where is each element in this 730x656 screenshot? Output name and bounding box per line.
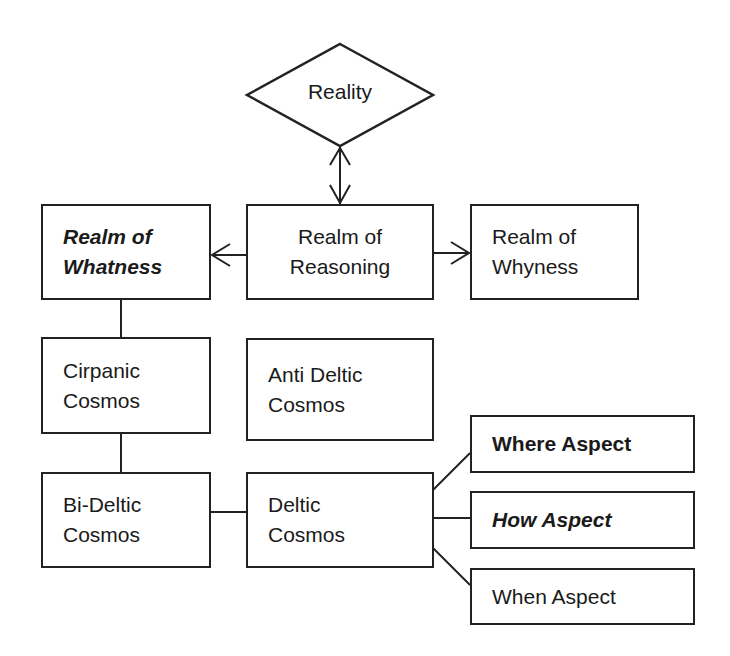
realm-of-whatness-box: Realm of Whatness — [41, 204, 211, 300]
when-aspect-box: When Aspect — [470, 568, 695, 625]
line1: Realm of — [298, 222, 382, 252]
label: Where Aspect — [492, 429, 693, 459]
where-aspect-box: Where Aspect — [470, 415, 695, 473]
line1: Realm of — [492, 222, 637, 252]
line1: Anti Deltic — [268, 360, 432, 390]
deltic-cosmos-box: Deltic Cosmos — [246, 472, 434, 568]
label: When Aspect — [492, 582, 693, 612]
line1: Cirpanic — [63, 356, 209, 386]
line2: Cosmos — [268, 520, 432, 550]
line1: Deltic — [268, 490, 432, 520]
reality-label: Reality — [247, 80, 433, 104]
cirpanic-cosmos-box: Cirpanic Cosmos — [41, 337, 211, 434]
line2: Reasoning — [290, 252, 390, 282]
how-aspect-box: How Aspect — [470, 491, 695, 549]
label: How Aspect — [492, 505, 693, 535]
bi-deltic-cosmos-box: Bi-Deltic Cosmos — [41, 472, 211, 568]
anti-deltic-cosmos-box: Anti Deltic Cosmos — [246, 338, 434, 441]
line1: Bi-Deltic — [63, 490, 209, 520]
line1: Realm of — [63, 222, 209, 252]
line2: Cosmos — [63, 520, 209, 550]
line2: Whatness — [63, 252, 209, 282]
line2: Cosmos — [63, 386, 209, 416]
realm-of-reasoning-box: Realm of Reasoning — [246, 204, 434, 300]
line2: Cosmos — [268, 390, 432, 420]
line2: Whyness — [492, 252, 637, 282]
realm-of-whyness-box: Realm of Whyness — [470, 204, 639, 300]
